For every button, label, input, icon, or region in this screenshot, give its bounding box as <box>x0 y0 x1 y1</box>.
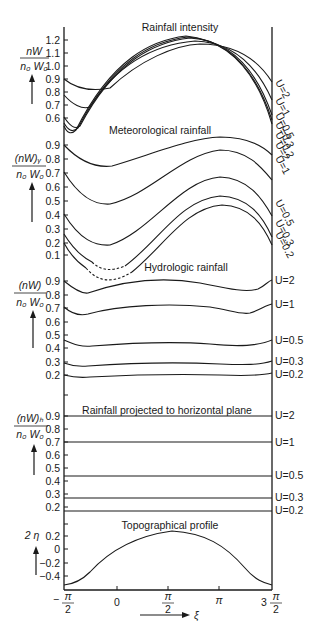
u-label: U=1 <box>275 436 295 448</box>
curve-u2 <box>64 137 272 166</box>
y-ticks: 0.9 0.8 0.7 0.6 0.5 0.4 0.3 0.2 <box>45 410 60 513</box>
y-label-denominator: n₀ W₀ <box>20 60 48 72</box>
curve-u1 <box>64 150 272 204</box>
tick-label: 0.5 <box>45 195 60 207</box>
u-label: U=0.3 <box>275 355 303 367</box>
y-label-numerator: (nW) <box>19 279 42 291</box>
panel-title: Rainfall intensity <box>142 21 219 33</box>
curve-u05 <box>64 177 272 245</box>
tick-label: 0.6 <box>45 112 60 124</box>
tick-label: 0.4 <box>45 342 60 354</box>
rainfall-figure: Rainfall intensity 1.2 1.1 1.0 0.9 0.8 0… <box>0 0 319 633</box>
u-label: U=0.3 <box>275 491 303 503</box>
curve-u03 <box>64 234 92 262</box>
u-labels-hydro: U=2 U=1 U=0.5 U=0.3 U=0.2 <box>275 274 303 380</box>
panel-rainfall-projected: Rainfall projected to horizontal plane 0… <box>14 404 303 524</box>
tick-label: 0.2 <box>45 530 60 542</box>
tick-label: 0.9 <box>45 275 60 287</box>
y-label-eta: 2 η <box>24 529 40 541</box>
panel-title: Hydrologic rainfall <box>144 261 227 273</box>
curve-u2 <box>64 44 272 90</box>
tick-label: 0.2 <box>45 369 60 381</box>
tick-label: 0.3 <box>45 223 60 235</box>
tick-label: 0.8 <box>45 86 60 98</box>
panel-rainfall-intensity: Rainfall intensity 1.2 1.1 1.0 0.9 0.8 0… <box>20 21 297 160</box>
curve-u03 <box>125 196 272 266</box>
y-label-denominator: n₀ W₀ <box>16 428 44 440</box>
tick-label: π <box>64 590 72 602</box>
y-ticks: 0.2 0 −0.2 −0.4 <box>39 530 60 582</box>
tick-label: − <box>53 593 59 605</box>
tick-label: π <box>272 590 280 602</box>
tick-label: 0.2 <box>45 501 60 513</box>
tick-label: 0 <box>114 596 120 608</box>
tick-label: −0.4 <box>39 570 60 582</box>
y-ticks: 0.9 0.8 0.7 0.6 0.5 0.4 0.3 0.2 0.1 <box>45 139 60 261</box>
tick-label: 0.3 <box>45 356 60 368</box>
y-label-denominator: n₀ W₀ <box>16 296 44 308</box>
tick-label: 0.8 <box>45 153 60 165</box>
tick-label: π <box>164 590 172 602</box>
u-label: U=0.2 <box>275 368 303 380</box>
u-labels-proj: U=2 U=1 U=0.5 U=0.3 U=0.2 <box>275 409 303 516</box>
up-arrow-icon <box>29 74 35 104</box>
curve-u05 <box>64 340 272 346</box>
panel-title: Topographical profile <box>122 519 219 531</box>
up-arrow-icon <box>33 546 39 575</box>
tick-label: 0.9 <box>45 73 60 85</box>
curve-u2 <box>64 280 272 293</box>
panel-hydrologic-rainfall: Hydrologic rainfall 0.9 0.8 0.7 0.6 0.5 … <box>14 261 303 395</box>
tick-label: 0.7 <box>45 99 60 111</box>
u-labels-meteo: U=2 U=1 U=0.5 U=0.3 U=0.2 <box>273 139 297 260</box>
y-label-denominator: n₀ W₀ <box>16 168 44 180</box>
u-label: U=0.5 <box>275 334 303 346</box>
tick-label: 0.8 <box>45 423 60 435</box>
curve-u03 <box>64 361 272 366</box>
up-arrow-icon <box>30 310 36 348</box>
up-arrow-icon <box>29 182 35 222</box>
tick-label: 0.5 <box>45 462 60 474</box>
up-arrow-icon <box>31 444 37 475</box>
x-label-xi: ξ <box>194 609 200 622</box>
tick-label: 2 <box>165 603 171 615</box>
tick-label: 0.4 <box>45 209 60 221</box>
tick-label: 3 <box>261 596 267 608</box>
tick-label: 1.1 <box>45 47 60 59</box>
tick-label: 0.6 <box>45 449 60 461</box>
u-label: U=2 <box>275 274 295 286</box>
tick-label: 0.2 <box>45 237 60 249</box>
panel-topographical-profile: Topographical profile 0.2 0 −0.2 −0.4 2 … <box>24 519 272 585</box>
tick-label: 0.9 <box>45 410 60 422</box>
tick-label: 0.6 <box>45 316 60 328</box>
y-ticks: 1.2 1.1 1.0 0.9 0.8 0.7 0.6 <box>45 34 60 124</box>
u-label: U=0.5 <box>275 469 303 481</box>
tick-label: 0.5 <box>45 329 60 341</box>
panel-title: Meteorological rainfall <box>109 124 211 136</box>
y-label-numerator: nW <box>26 45 43 57</box>
u-label: U=1 <box>275 298 295 310</box>
curve-u03-negative <box>92 262 125 269</box>
panel-title: Rainfall projected to horizontal plane <box>82 404 252 416</box>
x-ticks: − π 2 0 π 2 π 3 π 2 <box>53 590 282 615</box>
tick-label: 2 <box>273 603 279 615</box>
panel-meteorological-rainfall: Meteorological rainfall 0.9 0.8 0.7 0.6 … <box>12 124 297 280</box>
tick-label: 0 <box>54 543 60 555</box>
curve-u02 <box>64 373 272 377</box>
u-label: U=2 <box>275 409 295 421</box>
tick-label: 0.8 <box>45 289 60 301</box>
tick-label: 0.7 <box>45 167 60 179</box>
tick-label: 1.2 <box>45 34 60 46</box>
y-ticks: 0.9 0.8 0.7 0.6 0.5 0.4 0.3 0.2 <box>45 275 60 381</box>
tick-label: 0.3 <box>45 488 60 500</box>
curve-u1 <box>64 304 272 315</box>
tick-label: 0.7 <box>45 436 60 448</box>
tick-label: 0.7 <box>45 302 60 314</box>
tick-label: 2 <box>65 603 71 615</box>
tick-label: 0.6 <box>45 181 60 193</box>
y-label-numerator: (nW)ᵧ <box>15 152 42 164</box>
tick-label: −0.2 <box>39 557 60 569</box>
tick-label: 0.9 <box>45 139 60 151</box>
topography-curve <box>64 531 272 585</box>
tick-label: 0.1 <box>45 249 60 261</box>
tick-label: 0.4 <box>45 475 60 487</box>
